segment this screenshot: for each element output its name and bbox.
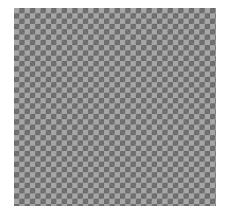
checkerboard-pattern bbox=[14, 8, 216, 206]
